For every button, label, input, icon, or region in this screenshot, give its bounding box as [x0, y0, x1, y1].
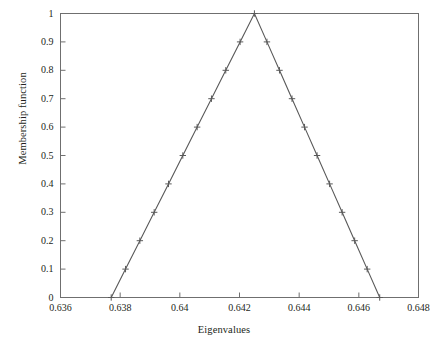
- y-tick-label: 0.7: [20, 94, 54, 104]
- y-tick-label: 0.8: [20, 65, 54, 75]
- data-point-marker: [276, 67, 282, 73]
- data-point-marker: [314, 152, 320, 158]
- x-tick-label: 0.636: [31, 303, 91, 313]
- data-point-marker: [237, 39, 243, 45]
- data-point-marker: [165, 181, 171, 187]
- data-point-marker: [180, 152, 186, 158]
- series-line-triangular-membership: [111, 14, 380, 298]
- data-point-marker: [264, 39, 270, 45]
- membership-function-chart: Membership function Eigenvalues 00.10.20…: [0, 0, 448, 350]
- plot-frame: [61, 14, 419, 298]
- data-point-marker: [108, 294, 114, 300]
- x-tick-label: 0.646: [329, 303, 389, 313]
- data-point-marker: [151, 209, 157, 215]
- y-tick-label: 0: [20, 293, 54, 303]
- x-tick-label: 0.638: [90, 303, 150, 313]
- data-point-marker: [377, 294, 383, 300]
- data-point-marker: [251, 10, 257, 16]
- x-axis-title: Eigenvalues: [0, 324, 448, 335]
- data-point-marker: [223, 67, 229, 73]
- y-tick-label: 1: [20, 9, 54, 19]
- data-point-marker: [208, 96, 214, 102]
- y-tick-label: 0.2: [20, 236, 54, 246]
- data-point-marker: [301, 124, 307, 130]
- data-point-marker: [289, 96, 295, 102]
- series-markers: [108, 10, 383, 300]
- y-tick-label: 0.3: [20, 207, 54, 217]
- y-tick-label: 0.5: [20, 151, 54, 161]
- y-tick-label: 0.4: [20, 179, 54, 189]
- data-point-marker: [122, 266, 128, 272]
- data-point-marker: [194, 124, 200, 130]
- y-tick-label: 0.6: [20, 122, 54, 132]
- x-tick-label: 0.642: [210, 303, 270, 313]
- plot-area: [0, 0, 448, 350]
- data-point-marker: [364, 266, 370, 272]
- data-point-marker: [137, 238, 143, 244]
- x-axis-ticks: [61, 293, 419, 298]
- y-tick-label: 0.9: [20, 37, 54, 47]
- data-point-marker: [351, 238, 357, 244]
- y-axis-title: Membership function: [17, 39, 28, 199]
- data-point-marker: [326, 181, 332, 187]
- x-tick-label: 0.644: [269, 303, 329, 313]
- y-tick-label: 0.1: [20, 264, 54, 274]
- x-tick-label: 0.64: [150, 303, 210, 313]
- y-axis-ticks: [61, 14, 66, 298]
- data-point-marker: [339, 209, 345, 215]
- x-tick-label: 0.648: [389, 303, 448, 313]
